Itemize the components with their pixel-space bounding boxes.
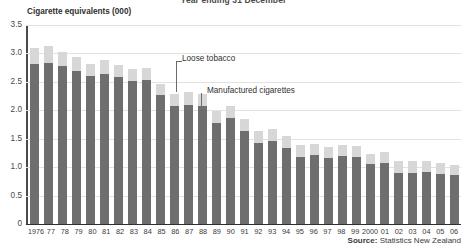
bar-segment-loose-tobacco[interactable] xyxy=(310,144,319,155)
bar-stack[interactable] xyxy=(352,146,361,224)
bar-segment-manufactured-cigarettes[interactable] xyxy=(142,80,151,224)
bar-segment-loose-tobacco[interactable] xyxy=(72,57,81,71)
bar-group[interactable] xyxy=(28,25,42,224)
bar-group[interactable] xyxy=(335,25,349,224)
bar-stack[interactable] xyxy=(366,154,375,224)
bar-segment-loose-tobacco[interactable] xyxy=(86,64,95,77)
bar-segment-manufactured-cigarettes[interactable] xyxy=(408,173,417,224)
bar-group[interactable] xyxy=(140,25,154,224)
bar-stack[interactable] xyxy=(212,111,221,224)
bar-segment-manufactured-cigarettes[interactable] xyxy=(240,131,249,224)
bar-segment-loose-tobacco[interactable] xyxy=(212,111,221,123)
bar-segment-loose-tobacco[interactable] xyxy=(58,52,67,66)
bar-group[interactable] xyxy=(293,25,307,224)
bar-stack[interactable] xyxy=(44,46,53,224)
bar-segment-manufactured-cigarettes[interactable] xyxy=(184,105,193,224)
bar-stack[interactable] xyxy=(324,147,333,224)
bar-stack[interactable] xyxy=(310,144,319,224)
bar-group[interactable] xyxy=(154,25,168,224)
bar-group[interactable] xyxy=(252,25,266,224)
bar-segment-manufactured-cigarettes[interactable] xyxy=(44,63,53,224)
bar-stack[interactable] xyxy=(436,163,445,224)
bar-stack[interactable] xyxy=(30,48,39,224)
bar-group[interactable] xyxy=(349,25,363,224)
bar-segment-manufactured-cigarettes[interactable] xyxy=(128,81,137,224)
bar-group[interactable] xyxy=(391,25,405,224)
bar-segment-manufactured-cigarettes[interactable] xyxy=(170,106,179,224)
bar-segment-loose-tobacco[interactable] xyxy=(44,46,53,62)
bar-segment-loose-tobacco[interactable] xyxy=(114,65,123,77)
bar-segment-loose-tobacco[interactable] xyxy=(422,161,431,172)
bar-segment-manufactured-cigarettes[interactable] xyxy=(352,157,361,224)
bar-segment-manufactured-cigarettes[interactable] xyxy=(72,71,81,224)
bar-group[interactable] xyxy=(307,25,321,224)
bar-stack[interactable] xyxy=(114,65,123,224)
bar-segment-manufactured-cigarettes[interactable] xyxy=(282,148,291,224)
bar-stack[interactable] xyxy=(86,64,95,224)
bar-group[interactable] xyxy=(447,25,461,224)
bar-segment-manufactured-cigarettes[interactable] xyxy=(324,158,333,224)
bar-group[interactable] xyxy=(84,25,98,224)
bar-segment-manufactured-cigarettes[interactable] xyxy=(310,155,319,224)
bar-group[interactable] xyxy=(56,25,70,224)
bar-segment-loose-tobacco[interactable] xyxy=(128,69,137,81)
bar-group[interactable] xyxy=(126,25,140,224)
bar-segment-loose-tobacco[interactable] xyxy=(254,131,263,144)
bar-stack[interactable] xyxy=(394,161,403,224)
bar-stack[interactable] xyxy=(422,161,431,224)
bar-segment-manufactured-cigarettes[interactable] xyxy=(366,164,375,224)
bar-stack[interactable] xyxy=(100,60,109,224)
bar-segment-manufactured-cigarettes[interactable] xyxy=(226,118,235,224)
bar-stack[interactable] xyxy=(240,119,249,224)
bar-stack[interactable] xyxy=(380,152,389,224)
bar-group[interactable] xyxy=(321,25,335,224)
bar-stack[interactable] xyxy=(142,68,151,224)
bar-segment-manufactured-cigarettes[interactable] xyxy=(86,76,95,224)
bar-segment-manufactured-cigarettes[interactable] xyxy=(338,156,347,224)
bar-segment-manufactured-cigarettes[interactable] xyxy=(268,141,277,224)
bar-group[interactable] xyxy=(279,25,293,224)
bar-segment-loose-tobacco[interactable] xyxy=(282,136,291,148)
bar-group[interactable] xyxy=(42,25,56,224)
bar-segment-loose-tobacco[interactable] xyxy=(408,161,417,172)
bar-group[interactable] xyxy=(98,25,112,224)
bar-segment-manufactured-cigarettes[interactable] xyxy=(100,74,109,224)
bar-segment-loose-tobacco[interactable] xyxy=(352,146,361,157)
bar-segment-loose-tobacco[interactable] xyxy=(394,161,403,173)
bar-stack[interactable] xyxy=(282,136,291,224)
bar-stack[interactable] xyxy=(338,145,347,224)
bar-segment-manufactured-cigarettes[interactable] xyxy=(212,123,221,224)
bar-group[interactable] xyxy=(419,25,433,224)
bar-stack[interactable] xyxy=(226,106,235,224)
bar-segment-loose-tobacco[interactable] xyxy=(240,119,249,130)
bar-group[interactable] xyxy=(433,25,447,224)
bar-group[interactable] xyxy=(238,25,252,224)
bar-segment-manufactured-cigarettes[interactable] xyxy=(30,64,39,224)
bar-group[interactable] xyxy=(112,25,126,224)
bar-segment-loose-tobacco[interactable] xyxy=(30,48,39,64)
bar-group[interactable] xyxy=(405,25,419,224)
bar-segment-loose-tobacco[interactable] xyxy=(184,92,193,105)
bar-stack[interactable] xyxy=(198,94,207,224)
bar-segment-manufactured-cigarettes[interactable] xyxy=(422,172,431,224)
bar-stack[interactable] xyxy=(268,129,277,225)
bar-segment-manufactured-cigarettes[interactable] xyxy=(394,173,403,224)
bar-segment-manufactured-cigarettes[interactable] xyxy=(296,157,305,224)
bar-stack[interactable] xyxy=(58,52,67,224)
bar-group[interactable] xyxy=(363,25,377,224)
bar-segment-loose-tobacco[interactable] xyxy=(142,68,151,80)
bar-segment-loose-tobacco[interactable] xyxy=(100,60,109,74)
bar-stack[interactable] xyxy=(184,92,193,224)
bar-segment-loose-tobacco[interactable] xyxy=(366,154,375,165)
bar-stack[interactable] xyxy=(408,161,417,224)
bar-stack[interactable] xyxy=(128,69,137,224)
bar-segment-loose-tobacco[interactable] xyxy=(198,94,207,107)
bar-segment-loose-tobacco[interactable] xyxy=(338,145,347,156)
bar-stack[interactable] xyxy=(450,165,459,224)
bar-stack[interactable] xyxy=(254,131,263,224)
bar-segment-manufactured-cigarettes[interactable] xyxy=(198,106,207,224)
bar-stack[interactable] xyxy=(170,94,179,224)
bar-stack[interactable] xyxy=(72,57,81,224)
bar-segment-manufactured-cigarettes[interactable] xyxy=(58,66,67,224)
bar-group[interactable] xyxy=(377,25,391,224)
